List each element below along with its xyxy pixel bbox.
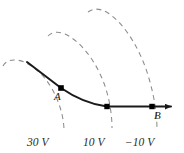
equipotential-label-30v: 30 V (27, 137, 48, 149)
point-label-a: A (54, 91, 61, 102)
equipotential-arc-10v (48, 32, 112, 128)
equipotential-label-minus-10v: −10 V (125, 137, 154, 149)
equipotential-diagram: A B 30 V 10 V −10 V (0, 0, 184, 153)
point-marker-mid (104, 104, 109, 109)
point-label-b: B (154, 110, 161, 121)
equipotential-label-10v: 10 V (83, 137, 104, 149)
diagram-canvas (0, 0, 184, 153)
